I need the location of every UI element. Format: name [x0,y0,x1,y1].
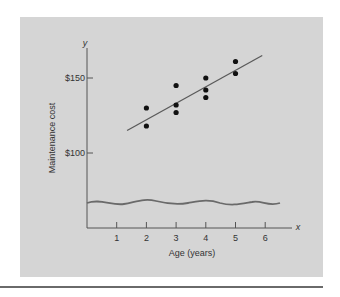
data-point [203,95,208,100]
y-axis-label: Maintenance cost [47,102,57,173]
x-tick-label: 1 [114,233,119,243]
regression-line [127,56,262,131]
data-point [144,105,149,110]
data-point [203,87,208,92]
data-point [174,83,179,88]
y-tick-label: $100 [65,148,85,158]
x-tick-label: 3 [174,233,179,243]
x-tick-label: 5 [233,233,238,243]
data-point [233,71,238,76]
y-tick-label: $150 [65,73,85,83]
data-point [174,102,179,107]
scatter-chart: y x $100$150 123456 Age (years) Maintena… [0,0,340,297]
axis-break-wave [87,200,280,205]
data-point [144,123,149,128]
data-point [203,75,208,80]
x-axis-symbol: x [295,222,301,232]
y-ticks: $100$150 [65,73,93,158]
data-point [233,59,238,64]
x-ticks: 123456 [114,222,268,243]
x-axis-label: Age (years) [169,248,216,258]
y-axis-symbol: y [82,38,88,48]
data-point [174,110,179,115]
x-tick-label: 4 [203,233,208,243]
data-points [144,59,238,129]
x-tick-label: 6 [263,233,268,243]
x-tick-label: 2 [144,233,149,243]
